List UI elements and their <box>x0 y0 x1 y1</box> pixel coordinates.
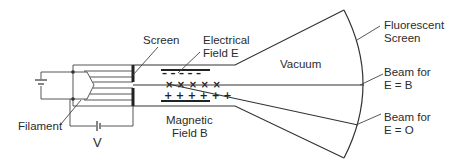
label-beam-eb-2: E = B <box>384 79 413 91</box>
label-voltage: V <box>93 135 102 150</box>
label-screen: Screen <box>143 34 179 46</box>
heater-circuit <box>35 70 75 101</box>
electron-gun <box>73 65 133 106</box>
label-magnetic-1: Magnetic <box>166 114 213 126</box>
label-beam-e0-2: E = O <box>384 124 414 136</box>
label-beam-eb-1: Beam for <box>384 66 431 78</box>
fluorescent-screen <box>344 10 363 158</box>
label-fluorescent-2: Screen <box>384 32 420 44</box>
crt-diagram: – – – – – × × × × × + + + + + + Screen E… <box>0 0 455 168</box>
label-fluorescent-1: Fluorescent <box>384 19 445 31</box>
label-magnetic-2: Field B <box>172 127 208 139</box>
label-beam-e0-1: Beam for <box>384 111 431 123</box>
label-vacuum: Vacuum <box>280 58 321 70</box>
label-electrical-2: Field E <box>203 47 239 59</box>
label-filament: Filament <box>18 120 63 132</box>
filament-icon <box>73 72 94 99</box>
label-electrical-1: Electrical <box>203 34 250 46</box>
accelerating-circuit <box>70 99 133 131</box>
